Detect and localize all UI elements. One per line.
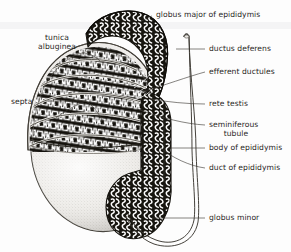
label-tunica-albuginea-line2: albuginea	[22, 42, 92, 51]
label-seminiferous-tubule-line2: tubule	[209, 129, 263, 138]
label-globus-major-of-epididymis: globus major of epididymis	[156, 10, 260, 19]
label-body-of-epididymis: body of epididymis	[209, 143, 282, 152]
label-duct-of-epididymis: duct of epididymis	[209, 163, 280, 172]
label-tunica-albuginea-line1: tunica	[26, 33, 88, 42]
label-rete-testis: rete testis	[209, 99, 248, 108]
label-ductus-deferens: ductus deferens	[209, 44, 271, 53]
label-seminiferous-tubule-line1: seminiferous	[209, 120, 258, 129]
label-efferent-ductules: efferent ductules	[209, 67, 275, 76]
label-septa: septa	[11, 97, 32, 106]
label-globus-minor: globus minor	[209, 213, 259, 222]
